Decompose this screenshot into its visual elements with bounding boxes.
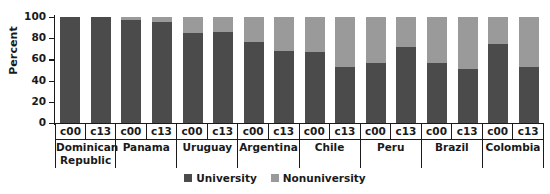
y-axis-tick-label: 80 [31,31,46,43]
x-axis-period-label: c13 [451,124,482,139]
x-axis-group: c00c13Uruguay [177,124,238,168]
bar [458,17,478,123]
x-axis-period-label: c13 [390,124,421,139]
x-axis-country-label: Uruguay [177,140,237,154]
bar-segment-university [183,33,203,123]
x-axis-period-row: c00c13 [361,124,421,140]
x-axis-country-label: Chile [300,140,360,154]
bar-segment-university [335,67,355,123]
bar-segment-nonuniversity [488,17,508,44]
legend-item: University [184,172,256,184]
x-axis-period-label: c00 [177,124,207,139]
bar [152,17,172,123]
x-axis-country-label: Argentina [238,140,298,154]
legend-swatch-university [184,174,192,182]
y-axis-tick-label: 100 [24,10,46,22]
y-axis-tick-mark [49,123,54,124]
y-axis-tick-mark [49,102,54,103]
bar [213,17,233,123]
x-axis-period-row: c00c13 [116,124,176,140]
stacked-bar-chart: Percent 020406080100 c00c13Dominican Rep… [0,0,550,194]
bars-layer [55,17,544,123]
bar-segment-university [427,63,447,123]
x-axis-period-row: c00c13 [300,124,360,140]
bar-segment-university [274,51,294,123]
x-axis-country-label: Panama [116,140,176,154]
bar-segment-nonuniversity [274,17,294,51]
x-axis-period-label: c00 [361,124,391,139]
bar-segment-university [458,69,478,123]
x-axis-period-label: c00 [422,124,452,139]
bar [366,17,386,123]
bar-segment-nonuniversity [458,17,478,69]
bar [91,17,111,123]
bar-segment-nonuniversity [335,17,355,67]
x-axis-period-label: c00 [238,124,268,139]
bar-segment-university [366,63,386,123]
x-axis-period-row: c00c13 [177,124,237,140]
x-axis-group: c00c13Brazil [422,124,483,168]
y-axis-tick-mark [49,17,54,18]
bar-segment-nonuniversity [183,17,203,33]
y-axis-title: Percent [7,16,20,86]
x-axis-country-label: Peru [361,140,421,154]
x-axis-period-row: c00c13 [56,124,115,140]
x-axis-group: c00c13Dominican Republic [55,124,116,168]
x-axis-period-label: c00 [116,124,146,139]
bar-segment-nonuniversity [244,17,264,42]
y-axis-tick-mark [49,59,54,60]
bar-segment-university [152,22,172,123]
bar [121,17,141,123]
y-axis-tick-label: 60 [31,52,46,64]
y-axis-tick-label: 0 [39,116,46,128]
bar-segment-nonuniversity [396,17,416,47]
bar [244,17,264,123]
x-axis-label-table: c00c13Dominican Republicc00c13Panamac00c… [55,124,544,168]
x-axis-period-row: c00c13 [483,124,543,140]
bar-segment-university [121,20,141,123]
x-axis-period-label: c00 [300,124,330,139]
bar-segment-university [488,44,508,124]
y-axis-tick-label: 20 [31,95,46,107]
x-axis-group: c00c13Chile [300,124,361,168]
y-axis-tick-mark [49,38,54,39]
bar-segment-nonuniversity [305,17,325,52]
bar [183,17,203,123]
x-axis-group: c00c13Colombia [483,124,544,168]
bar-segment-university [91,17,111,123]
bar-segment-university [213,32,233,123]
x-axis-group: c00c13Panama [116,124,177,168]
bar [396,17,416,123]
y-axis-tick-label: 40 [31,74,46,86]
x-axis-period-label: c13 [85,124,115,139]
x-axis-period-label: c13 [268,124,299,139]
bar-segment-university [519,67,539,123]
x-axis-period-row: c00c13 [238,124,298,140]
bar [305,17,325,123]
bar-segment-nonuniversity [366,17,386,63]
bar-segment-university [305,52,325,123]
legend-item: Nonuniversity [271,172,366,184]
x-axis-period-label: c13 [207,124,238,139]
legend-label: Nonuniversity [283,172,366,184]
bar-segment-university [244,42,264,123]
x-axis-group: c00c13Argentina [238,124,299,168]
bar-segment-university [60,17,80,123]
legend-swatch-nonuniversity [271,174,279,182]
x-axis-country-label: Brazil [422,140,482,154]
bar [60,17,80,123]
bar-segment-nonuniversity [213,17,233,32]
x-axis-group: c00c13Peru [361,124,422,168]
bar [274,17,294,123]
x-axis-period-label: c00 [56,124,85,139]
y-axis-tick-mark [49,81,54,82]
x-axis-period-label: c13 [512,124,543,139]
x-axis-country-label: Colombia [483,140,543,154]
bar [427,17,447,123]
bar-segment-nonuniversity [427,17,447,63]
bar-segment-nonuniversity [519,17,539,67]
x-axis-country-label: Dominican Republic [56,140,115,167]
bar [335,17,355,123]
x-axis-period-label: c00 [483,124,513,139]
x-axis-period-label: c13 [146,124,177,139]
